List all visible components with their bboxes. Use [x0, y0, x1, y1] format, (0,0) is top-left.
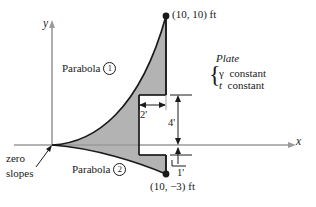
dim-2ft-arrow-left [139, 102, 146, 108]
point-top-vertex-dot [163, 13, 170, 20]
gamma-symbol: γ [219, 67, 224, 79]
parabola-2-label-text: Parabola [72, 163, 110, 175]
point-bottom-vertex-label: (10, −3) ft [150, 181, 195, 192]
dim-2ft-label: 2' [140, 110, 147, 121]
parabola-1-label-text: Parabola [62, 62, 100, 74]
point-bottom-vertex-dot [163, 171, 170, 178]
dim-1ft-label: 1' [177, 168, 184, 179]
parabola-1-number-badge: 1 [103, 62, 116, 75]
parabola-2-number-badge: 2 [113, 163, 126, 176]
x-axis-label: x [296, 136, 301, 148]
zero-slopes-label-line1: zero [6, 153, 25, 164]
zero-slopes-leader-line [36, 148, 50, 167]
parabola-1-label: Parabola1 [62, 62, 116, 75]
figure-drawing [0, 0, 316, 207]
figure-container: y x (10, 10) ft (10, −3) ft Parabola1 Pa… [0, 0, 316, 207]
dim-1ft-arrow-top [175, 147, 181, 154]
x-axis-arrowhead [288, 142, 296, 148]
y-axis-arrowhead [49, 20, 55, 28]
thickness-symbol: t [219, 79, 222, 91]
dim-2ft-arrow-right [159, 102, 166, 108]
dim-4ft-arrow-bottom [175, 138, 181, 145]
dim-4ft-label: 4' [168, 118, 175, 129]
y-axis-label: y [43, 18, 48, 30]
point-top-vertex-label: (10, 10) ft [172, 9, 216, 20]
zero-slopes-arrowhead [46, 145, 52, 152]
thickness-constant-text: constant [228, 79, 265, 91]
gamma-constant-text: constant [229, 67, 266, 79]
zero-slopes-label-line2: slopes [6, 168, 34, 179]
parabola-2-label: Parabola2 [72, 163, 126, 176]
plate-property-gamma: γ constant [219, 68, 266, 79]
dim-4ft-arrow-top [175, 95, 181, 102]
plate-property-thickness: t constant [219, 80, 264, 91]
